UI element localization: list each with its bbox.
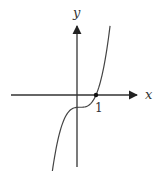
point-label: 1 [95,101,103,115]
graph-canvas: y x 1 [0,0,165,171]
x-axis-label: x [145,87,153,102]
x-intercept-point [94,93,98,97]
y-axis-label: y [72,5,81,20]
cubic-curve [46,26,110,171]
